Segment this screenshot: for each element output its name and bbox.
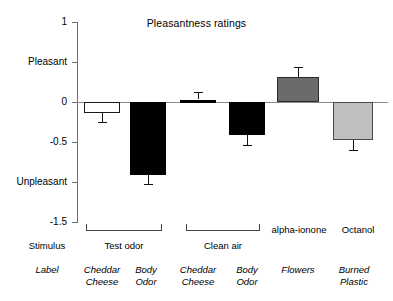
- bar-1: [84, 102, 120, 113]
- bar-3: [180, 100, 216, 103]
- group-bracket-test-odor: [86, 224, 162, 231]
- y-tick-mark--1: [72, 182, 77, 183]
- y-tick-mark-1: [72, 22, 77, 23]
- y-tick-mark--0.5: [72, 142, 77, 143]
- y-axis-line: [77, 22, 78, 223]
- bar-label-2-line1: Body: [122, 264, 170, 275]
- error-bar-stem-4: [247, 135, 248, 145]
- bar-label-4-line1: Body: [224, 264, 270, 275]
- error-bar-cap-2: [144, 184, 153, 185]
- error-bar-stem-2: [148, 175, 149, 184]
- error-bar-stem-6: [353, 140, 354, 150]
- bar-5: [277, 77, 319, 102]
- bar-label-6-line2: Plastic: [326, 276, 382, 287]
- error-bar-cap-upper-3: [194, 92, 203, 93]
- y-tick-mark--1.5: [72, 222, 77, 223]
- bar-label-6-line1: Burned: [326, 264, 382, 275]
- plot-area: Pleasantness ratings 1 Pleasant 0 -0.5 U…: [0, 0, 393, 301]
- row-header-stimulus: Stimulus: [18, 240, 76, 251]
- group-bracket-clean-air: [186, 224, 260, 231]
- y-tick-mark-0.5: [72, 62, 77, 63]
- bar-label-2-line2: Odor: [122, 276, 170, 287]
- bar-label-3-line2: Cheese: [170, 276, 226, 287]
- y-tick-label-unpleasant: Unpleasant: [0, 177, 67, 187]
- error-bar-cap-5: [294, 67, 303, 68]
- bar-label-4-line2: Odor: [224, 276, 270, 287]
- bar-6: [333, 102, 373, 140]
- bar-label-5-line1: Flowers: [270, 264, 326, 275]
- y-tick-label-pleasant: Pleasant: [0, 57, 67, 67]
- error-bar-stem-upper-3: [198, 92, 199, 99]
- error-bar-cap-6: [349, 150, 358, 151]
- error-bar-cap-1: [98, 122, 107, 123]
- y-tick-label--1.5: -1.5: [0, 217, 67, 227]
- error-bar-stem-1: [102, 113, 103, 122]
- bar-2: [130, 102, 166, 175]
- group-label-alpha-ionone: alpha-ionone: [268, 224, 330, 235]
- group-label-clean-air: Clean air: [186, 240, 260, 251]
- group-label-octanol: Octanol: [330, 224, 386, 235]
- error-bar-stem-5: [298, 67, 299, 77]
- y-tick-label-0: 0: [0, 97, 67, 107]
- chart-root: Pleasantness ratings 1 Pleasant 0 -0.5 U…: [0, 0, 393, 301]
- row-header-label: Label: [18, 264, 76, 275]
- y-tick-label-1: 1: [0, 17, 67, 27]
- group-label-test-odor: Test odor: [86, 240, 162, 251]
- bar-4: [229, 102, 265, 135]
- error-bar-cap-4: [243, 145, 252, 146]
- bar-label-3-line1: Cheddar: [170, 264, 226, 275]
- y-tick-label--0.5: -0.5: [0, 137, 67, 147]
